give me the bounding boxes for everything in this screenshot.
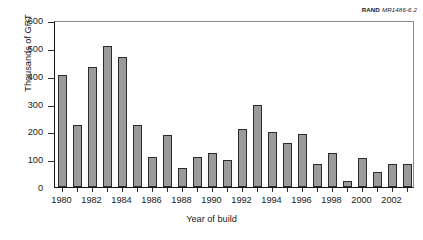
- bar-1994: [268, 132, 278, 187]
- bar-2000: [358, 158, 368, 188]
- y-tick-mark-100: [48, 161, 55, 162]
- x-tick-label-1984: 1984: [111, 194, 131, 206]
- x-axis-title: Year of build: [0, 214, 423, 224]
- x-tick-label-1982: 1982: [81, 194, 101, 206]
- bar-1984: [118, 57, 128, 187]
- bar-1989: [193, 157, 203, 187]
- y-tick-mark-500: [48, 50, 55, 51]
- bar-2001: [373, 172, 383, 187]
- y-tick-label-400: 400: [28, 72, 43, 81]
- y-tick-label-500: 500: [28, 44, 43, 53]
- bar-1988: [178, 168, 188, 187]
- bar-1981: [73, 125, 83, 187]
- y-tick-mark-200: [48, 133, 55, 134]
- x-tick-mark-1993: [257, 188, 258, 192]
- x-tick-mark-1981: [77, 188, 78, 192]
- x-tick-mark-1983: [107, 188, 108, 192]
- x-tick-label-1996: 1996: [291, 194, 311, 206]
- x-tick-label-2000: 2000: [351, 194, 371, 206]
- bar-1998: [328, 153, 338, 188]
- x-tick-label-1980: 1980: [51, 194, 71, 206]
- x-tick-mark-1998: [332, 188, 333, 192]
- x-tick-label-1998: 1998: [321, 194, 341, 206]
- x-tick-mark-1991: [227, 188, 228, 192]
- y-tick-label-0: 0: [38, 184, 43, 193]
- x-tick-mark-1994: [272, 188, 273, 192]
- y-tick-label-600: 600: [28, 17, 43, 26]
- x-tick-mark-1989: [197, 188, 198, 192]
- x-tick-mark-2000: [362, 188, 363, 192]
- y-tick-mark-400: [48, 78, 55, 79]
- y-tick-label-200: 200: [28, 128, 43, 137]
- bar-1991: [223, 160, 233, 187]
- bar-2002: [388, 164, 398, 187]
- x-tick-mark-2003: [407, 188, 408, 192]
- x-tick-mark-1992: [242, 188, 243, 192]
- y-tick-label-100: 100: [28, 156, 43, 165]
- y-tick-mark-600: [48, 22, 55, 23]
- x-tick-mark-2002: [392, 188, 393, 192]
- x-tick-mark-1995: [287, 188, 288, 192]
- bar-1990: [208, 153, 218, 187]
- y-axis-tick-labels: 0100200300400500600: [0, 21, 52, 188]
- x-tick-label-1992: 1992: [231, 194, 251, 206]
- x-tick-mark-1999: [347, 188, 348, 192]
- x-tick-label-1988: 1988: [171, 194, 191, 206]
- x-tick-mark-1982: [92, 188, 93, 192]
- x-tick-label-2002: 2002: [381, 194, 401, 206]
- x-tick-mark-1987: [167, 188, 168, 192]
- bar-1980: [58, 75, 68, 187]
- bar-series: [55, 22, 413, 187]
- bar-1993: [253, 105, 263, 187]
- bar-1995: [283, 143, 293, 187]
- y-tick-mark-300: [48, 106, 55, 107]
- rand-source-tag: RANDMR1486-6.2: [362, 6, 417, 14]
- bar-1982: [88, 67, 98, 187]
- bar-1992: [238, 129, 248, 187]
- y-tick-label-300: 300: [28, 100, 43, 109]
- bar-1997: [313, 164, 323, 187]
- chart-figure: RANDMR1486-6.2 Thousands of GRT 01002003…: [0, 0, 423, 240]
- x-tick-mark-1985: [137, 188, 138, 192]
- x-tick-label-1994: 1994: [261, 194, 281, 206]
- plot-area: [54, 21, 414, 188]
- bar-1987: [163, 135, 173, 187]
- bar-2003: [403, 164, 413, 187]
- bar-1983: [103, 46, 113, 187]
- x-tick-mark-1980: [62, 188, 63, 192]
- x-tick-mark-2001: [377, 188, 378, 192]
- rand-brand-label: RAND: [362, 6, 380, 13]
- bar-1999: [343, 181, 353, 187]
- bar-1986: [148, 157, 158, 187]
- bar-1996: [298, 134, 308, 187]
- x-tick-label-1986: 1986: [141, 194, 161, 206]
- x-tick-mark-1988: [182, 188, 183, 192]
- x-tick-mark-1984: [122, 188, 123, 192]
- x-axis-tick-labels: 1980198219841986198819901992199419961998…: [54, 194, 414, 208]
- x-tick-label-1990: 1990: [201, 194, 221, 206]
- bar-1985: [133, 125, 143, 187]
- x-tick-mark-1990: [212, 188, 213, 192]
- x-tick-mark-1996: [302, 188, 303, 192]
- x-tick-mark-1997: [317, 188, 318, 192]
- x-tick-mark-1986: [152, 188, 153, 192]
- rand-document-number: MR1486-6.2: [382, 6, 417, 13]
